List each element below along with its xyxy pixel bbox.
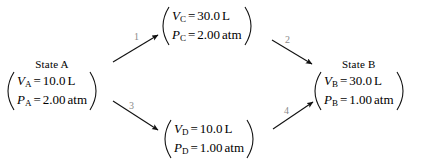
left-paren-icon: [161, 6, 170, 49]
state-a-pressure-row: PA=2.00atm: [17, 92, 87, 111]
state-c-volume-unit: L: [220, 8, 230, 23]
state-b-volume-unit: L: [372, 73, 382, 88]
state-b-volume-equals: =: [338, 73, 349, 88]
state-b-pressure-row: PB=1.00atm: [324, 92, 394, 111]
step-label-3: 3: [129, 101, 134, 111]
state-c-volume-symbol: V: [172, 8, 180, 23]
left-paren-icon: [6, 71, 15, 114]
state-c-volume-equals: =: [186, 8, 197, 23]
state-b-group: State B VB=30.0L PB=1.00atm: [313, 58, 405, 118]
right-paren-icon: [396, 71, 405, 114]
state-a-block: VA=10.0L PA=2.00atm: [6, 71, 98, 114]
state-c-volume-value: 30.0: [197, 8, 220, 23]
step-label-1: 1: [134, 32, 139, 42]
state-a-pressure-unit: atm: [66, 92, 88, 107]
state-a-group: State A VA=10.0L PA=2.00atm: [6, 58, 98, 118]
state-c-pressure-symbol: P: [172, 27, 180, 42]
state-d-volume-unit: L: [223, 121, 233, 136]
state-d-pressure-value: 1.00: [200, 140, 223, 155]
state-d-pressure-symbol: P: [174, 140, 182, 155]
state-b-pressure-equals: =: [338, 92, 349, 107]
state-d-volume-symbol: V: [174, 121, 182, 136]
state-a-pressure-value: 2.00: [43, 92, 66, 107]
right-paren-icon: [246, 119, 255, 162]
state-b-volume-value: 30.0: [349, 73, 372, 88]
state-d-group: VD=10.0L PD=1.00atm: [163, 119, 255, 166]
step-label-2: 2: [285, 35, 290, 45]
step-label-4: 4: [284, 106, 289, 116]
state-b-pressure-symbol: P: [324, 92, 332, 107]
diagram-canvas: 1 2 3 4 State A VA=10.0L PA=2.00atm: [0, 0, 426, 166]
state-d-volume-equals: =: [188, 121, 199, 136]
state-c-pressure-value: 2.00: [197, 27, 220, 42]
state-c-pressure-row: PC=2.00atm: [172, 27, 242, 46]
state-c-group: VC=30.0L PC=2.00atm: [161, 6, 253, 53]
state-b-title: State B: [313, 58, 405, 70]
state-a-volume-equals: =: [31, 73, 42, 88]
arrow-step-4: [273, 102, 313, 129]
left-paren-icon: [313, 71, 322, 114]
arrow-step-3: [113, 101, 158, 130]
right-paren-icon: [89, 71, 98, 114]
state-a-pressure-symbol: P: [17, 92, 25, 107]
right-paren-icon: [244, 6, 253, 49]
state-a-pressure-equals: =: [31, 92, 42, 107]
state-d-pressure-row: PD=1.00atm: [174, 140, 244, 159]
state-a-title: State A: [6, 58, 98, 70]
state-c-pressure-unit: atm: [220, 27, 242, 42]
state-b-volume-row: VB=30.0L: [324, 73, 394, 92]
state-b-block: VB=30.0L PB=1.00atm: [313, 71, 405, 114]
state-a-volume-row: VA=10.0L: [17, 73, 87, 92]
state-b-pressure-unit: atm: [372, 92, 394, 107]
state-a-volume-value: 10.0: [43, 73, 66, 88]
state-d-volume-row: VD=10.0L: [174, 121, 244, 140]
arrow-step-2: [272, 40, 312, 64]
state-d-pressure-equals: =: [188, 140, 199, 155]
state-c-pressure-equals: =: [186, 27, 197, 42]
state-a-volume-symbol: V: [17, 73, 25, 88]
left-paren-icon: [163, 119, 172, 162]
state-d-volume-value: 10.0: [200, 121, 223, 136]
state-c-block: VC=30.0L PC=2.00atm: [161, 6, 253, 49]
state-b-volume-symbol: V: [324, 73, 332, 88]
state-c-volume-row: VC=30.0L: [172, 8, 242, 27]
state-a-volume-unit: L: [66, 73, 76, 88]
state-b-pressure-value: 1.00: [349, 92, 372, 107]
state-d-block: VD=10.0L PD=1.00atm: [163, 119, 255, 162]
state-d-pressure-unit: atm: [223, 140, 245, 155]
